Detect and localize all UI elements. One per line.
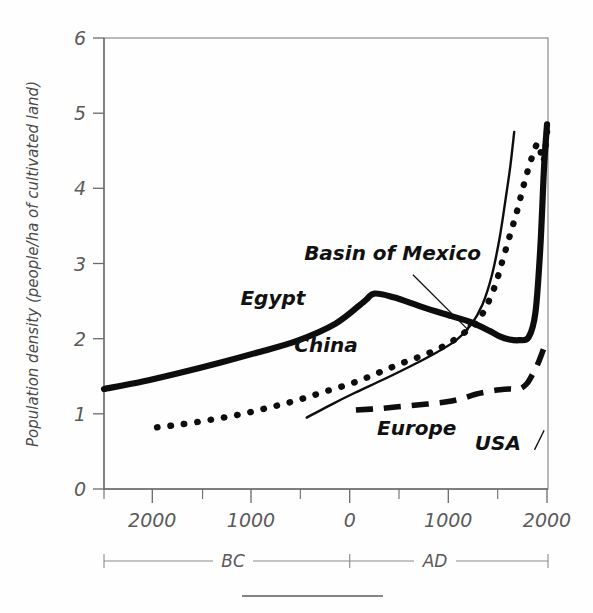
series-curves xyxy=(104,124,547,427)
x-tick-label-1000bc: 1000 xyxy=(227,509,275,531)
series-curve-basin-of-mexico xyxy=(307,132,515,418)
y-tick-label-3: 3 xyxy=(74,253,86,275)
era-bracket xyxy=(104,554,548,568)
era-label-bc: BC xyxy=(221,551,245,571)
series-curve-china xyxy=(157,132,547,427)
x-axis-minor-ticks xyxy=(104,489,498,499)
y-tick-label-1: 1 xyxy=(74,403,86,425)
series-label-basin-of-mexico: Basin of Mexico xyxy=(304,241,481,265)
y-tick-label-5: 5 xyxy=(74,102,86,124)
y-axis-label: Population density (people/ha of cultiva… xyxy=(24,81,42,447)
x-axis-major-ticks xyxy=(152,489,547,503)
y-tick-label-2: 2 xyxy=(74,328,86,350)
series-label-usa: USA xyxy=(475,431,521,455)
era-label-ad: AD xyxy=(422,551,448,571)
x-tick-label-2000bc: 2000 xyxy=(128,509,176,531)
y-tick-label-6: 6 xyxy=(74,27,86,49)
basin-of-mexico-arrow xyxy=(413,275,469,330)
series-label-egypt: Egypt xyxy=(240,286,306,310)
y-tick-label-4: 4 xyxy=(74,177,86,199)
chart-figure: 6 5 4 3 2 1 0 Population density (people… xyxy=(0,0,593,613)
usa-pointer xyxy=(535,430,545,450)
series-label-europe: Europe xyxy=(377,416,456,440)
y-tick-label-0: 0 xyxy=(74,478,86,500)
series-label-china: China xyxy=(294,333,358,357)
x-tick-label-2000ad: 2000 xyxy=(523,509,571,531)
series-curve-europe xyxy=(356,339,547,410)
x-tick-label-0: 0 xyxy=(344,509,356,531)
population-density-chart: 6 5 4 3 2 1 0 Population density (people… xyxy=(0,0,593,613)
y-axis-ticks xyxy=(93,38,104,489)
x-tick-label-1000ad: 1000 xyxy=(424,509,472,531)
